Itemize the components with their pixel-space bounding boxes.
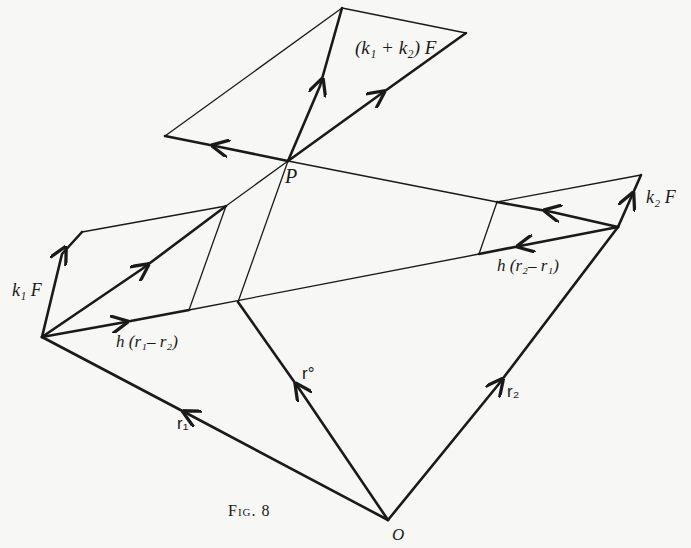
vector-P-to-left [165, 136, 288, 161]
vector-k1F [42, 232, 82, 337]
label-k1F: k₁ F [12, 281, 42, 299]
vector-diagram [0, 0, 691, 548]
vector-r1 [42, 337, 388, 520]
left-top-edge [82, 206, 226, 232]
left-diagonal-vector [42, 206, 226, 337]
top-left-edge [165, 8, 342, 136]
lines-from-P [226, 161, 497, 302]
base-line [42, 227, 618, 337]
right-inner-edge [479, 202, 497, 254]
label-r0: r° [302, 365, 314, 382]
label-P: P [285, 166, 297, 186]
vector-k2F [618, 175, 641, 227]
label-k1k2F: (k₁ + k₂) F [355, 38, 436, 57]
label-O: O [392, 526, 404, 543]
label-h-r2-r1: h (r₂– r₁) [497, 257, 559, 274]
line-P-to-right-corner [288, 161, 497, 202]
line-P-to-r0-junction [238, 161, 288, 302]
resultant-vector-k1k2F [288, 8, 342, 161]
left-parallelogram [42, 206, 226, 337]
label-r2: r₂ [507, 383, 519, 400]
top-edge [342, 8, 466, 33]
label-r1: r₁ [177, 415, 188, 432]
right-parallelogram [479, 175, 641, 254]
vector-h-r2-r1 [479, 227, 618, 254]
line-P-to-left-corner [226, 161, 288, 206]
base-middle-segment [189, 254, 479, 310]
resultant-parallelogram [165, 8, 466, 161]
right-diagonal-vector [497, 202, 618, 227]
right-top-edge [497, 175, 641, 202]
figure-caption: Fig. 8 [228, 503, 271, 519]
label-k2F: k₂ F [646, 188, 676, 206]
left-inner-edge [189, 206, 226, 310]
label-h-r1-r2: h (r₁– r₂) [116, 333, 178, 350]
vector-r0 [238, 302, 388, 520]
